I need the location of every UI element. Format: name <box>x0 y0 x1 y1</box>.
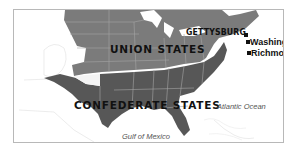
gettysburg-label: GETTYSBURG <box>186 27 246 37</box>
gettysburg-marker <box>244 33 248 37</box>
union-states-label: UNION STATES <box>110 44 205 55</box>
confederate-states-label: CONFEDERATE STATES <box>74 100 221 111</box>
washington-label: Washington <box>250 38 284 47</box>
map-frame: UNION STATES CONFEDERATE STATES GETTYSBU… <box>13 9 284 143</box>
lake-okeechobee <box>168 122 171 125</box>
gulf-of-mexico-label: Gulf of Mexico <box>122 133 170 141</box>
atlantic-ocean-label: Atlantic Ocean <box>217 103 266 111</box>
richmond-label: Richmond <box>251 49 284 58</box>
